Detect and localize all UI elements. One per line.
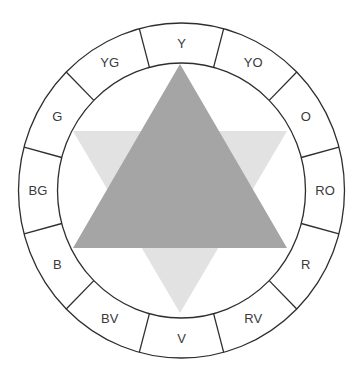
segment-label-yg: YG [100,55,119,70]
segment-label-g: G [52,109,62,124]
segment-divider [214,314,224,353]
segment-divider [269,72,297,100]
segment-divider [139,314,149,353]
segment-label-b: B [53,257,62,272]
segment-label-ro: RO [315,183,335,198]
segment-divider [301,223,339,233]
segment-divider [24,223,62,233]
segment-label-bv: BV [101,311,119,326]
segment-divider [24,147,62,157]
color-wheel: Y YO O RO R RV V BV B BG G YG [0,0,359,370]
segment-divider [301,147,339,157]
segment-divider [139,29,149,68]
segment-label-yo: YO [244,55,263,70]
segment-divider [66,72,94,100]
segment-label-rv: RV [244,311,262,326]
segment-divider [66,281,94,309]
segment-label-r: R [301,257,310,272]
segment-divider [269,281,297,309]
segment-label-v: V [177,331,186,346]
segment-label-bg: BG [29,183,48,198]
segment-divider [214,29,224,68]
segment-label-o: O [301,109,311,124]
segment-label-y: Y [177,36,186,51]
